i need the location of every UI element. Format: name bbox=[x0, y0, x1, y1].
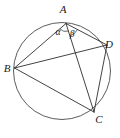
angle-arc-alpha bbox=[60, 29, 68, 32]
angle-label-beta: β bbox=[69, 29, 75, 39]
vertex-label-B: B bbox=[4, 62, 11, 74]
circumscribed-circle bbox=[14, 23, 111, 120]
geometry-figure: A B C D α β bbox=[0, 0, 120, 138]
vertex-label-C: C bbox=[95, 113, 103, 125]
chord-DC bbox=[94, 45, 107, 112]
geometry-canvas: A B C D α β bbox=[0, 0, 120, 138]
vertex-label-A: A bbox=[59, 3, 67, 15]
vertex-label-D: D bbox=[104, 38, 113, 50]
